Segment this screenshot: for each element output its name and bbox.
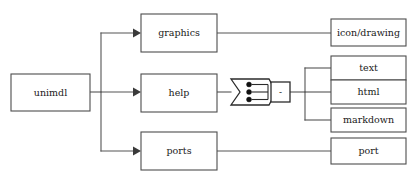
edge-unimdl-to-ports bbox=[101, 147, 141, 156]
bus-port-dot-3 bbox=[247, 97, 252, 102]
diagram-svg: unimdl graphics help ports bbox=[0, 0, 413, 183]
node-markdown-label: markdown bbox=[343, 114, 394, 125]
node-graphics-label: graphics bbox=[158, 27, 200, 38]
bus-port-dot-2 bbox=[247, 90, 252, 95]
edge-unimdl-to-help bbox=[101, 88, 141, 97]
node-html[interactable]: html bbox=[331, 80, 406, 104]
node-html-label: html bbox=[358, 86, 380, 97]
node-unimdl[interactable]: unimdl bbox=[11, 74, 90, 111]
node-icon-drawing-label: icon/drawing bbox=[337, 27, 400, 38]
node-port-label: port bbox=[358, 145, 378, 156]
edge-unimdl-to-graphics bbox=[101, 29, 141, 38]
bus-selector-block[interactable]: - bbox=[231, 79, 290, 105]
arrow-head-graphics bbox=[133, 29, 141, 38]
bus-port-dot-1 bbox=[247, 82, 252, 87]
edge-unimdl-trunk bbox=[90, 33, 101, 151]
bus-selector-label: - bbox=[279, 87, 282, 97]
node-markdown[interactable]: markdown bbox=[331, 108, 406, 132]
node-help[interactable]: help bbox=[141, 74, 217, 112]
block-diagram-canvas: unimdl graphics help ports bbox=[0, 0, 413, 183]
node-graphics[interactable]: graphics bbox=[141, 14, 217, 52]
node-help-label: help bbox=[169, 87, 190, 98]
node-text-label: text bbox=[359, 62, 378, 73]
node-icon-drawing[interactable]: icon/drawing bbox=[331, 19, 406, 46]
node-ports[interactable]: ports bbox=[141, 132, 217, 170]
node-text[interactable]: text bbox=[331, 56, 406, 80]
node-port[interactable]: port bbox=[331, 138, 406, 164]
node-unimdl-label: unimdl bbox=[34, 87, 67, 98]
arrow-head-help bbox=[133, 88, 141, 97]
node-ports-label: ports bbox=[166, 145, 191, 156]
arrow-head-ports bbox=[133, 147, 141, 156]
